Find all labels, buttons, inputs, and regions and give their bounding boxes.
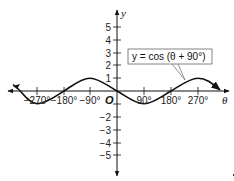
equation-callout: y = cos (θ + 90°): [128, 49, 212, 80]
svg-text:3: 3: [105, 48, 111, 59]
page-mark: [233, 174, 234, 176]
y-axis-label: y: [120, 7, 126, 19]
svg-text:−5: −5: [100, 150, 112, 161]
svg-text:−90°: −90°: [80, 95, 101, 106]
svg-text:−3: −3: [100, 125, 112, 136]
svg-text:4: 4: [105, 35, 111, 46]
svg-text:180°: 180°: [161, 95, 182, 106]
equation-label: y = cos (θ + 90°): [132, 51, 205, 62]
svg-text:1: 1: [105, 73, 111, 84]
cosine-graph: −270° −180° −90° 90° 180° 270° 5 4 3 2 1…: [0, 0, 234, 181]
svg-text:−180°: −180°: [51, 95, 78, 106]
svg-text:5: 5: [105, 22, 111, 33]
svg-text:−270°: −270°: [24, 95, 51, 106]
svg-text:−2: −2: [100, 112, 112, 123]
svg-text:90°: 90°: [136, 95, 151, 106]
svg-text:270°: 270°: [188, 95, 209, 106]
x-axis-label: θ: [222, 94, 228, 106]
svg-text:2: 2: [105, 60, 111, 71]
origin-label: O: [105, 94, 114, 106]
svg-text:−4: −4: [100, 138, 112, 149]
